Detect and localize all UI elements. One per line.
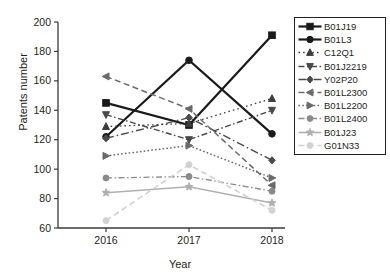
x-tick-label: 2017 bbox=[177, 234, 201, 246]
data-point bbox=[103, 123, 110, 130]
legend-marker-icon bbox=[297, 139, 323, 152]
data-point bbox=[185, 183, 193, 190]
legend-item-b01l2400[interactable]: B01L2400 bbox=[297, 112, 383, 125]
legend-marker-icon bbox=[297, 86, 323, 99]
legend-item-label: B01L2300 bbox=[324, 86, 367, 99]
legend-item-c12q1[interactable]: C12Q1 bbox=[297, 46, 383, 59]
series-line bbox=[106, 76, 272, 185]
y-tick-label: 100 bbox=[33, 163, 51, 175]
legend-marker-icon bbox=[297, 46, 323, 59]
patents-number-line-chart: 6080100120140160180200201620172018 Paten… bbox=[0, 0, 390, 276]
series-b01j23 bbox=[102, 183, 276, 207]
data-point bbox=[269, 188, 275, 194]
legend-item-b01j23[interactable]: B01J23 bbox=[297, 126, 383, 139]
series-g01n33 bbox=[103, 162, 275, 224]
legend-item-y02p20[interactable]: Y02P20 bbox=[297, 73, 383, 86]
data-point bbox=[186, 162, 192, 168]
data-point bbox=[269, 157, 275, 164]
legend-marker-icon bbox=[297, 20, 323, 33]
data-point bbox=[186, 57, 193, 64]
y-axis-title: Patents number bbox=[17, 47, 29, 137]
legend-item-label: B01J23 bbox=[324, 126, 356, 139]
legend-item-label: G01N33 bbox=[324, 139, 359, 152]
data-point bbox=[103, 218, 109, 224]
y-tick-label: 160 bbox=[33, 74, 51, 86]
legend-marker-icon bbox=[297, 60, 323, 73]
series-line bbox=[106, 187, 272, 203]
data-point bbox=[268, 199, 276, 206]
data-point bbox=[269, 95, 276, 102]
legend-item-label: B01J19 bbox=[324, 20, 356, 33]
y-tick-label: 120 bbox=[33, 133, 51, 145]
y-tick-label: 200 bbox=[33, 16, 51, 28]
legend-item-label: C12Q1 bbox=[324, 46, 354, 59]
series-c12q1 bbox=[103, 95, 276, 130]
legend-item-b01l3[interactable]: B01L3 bbox=[297, 33, 383, 46]
legend-item-g01n33[interactable]: G01N33 bbox=[297, 139, 383, 152]
legend-item-b01l2300[interactable]: B01L2300 bbox=[297, 86, 383, 99]
data-point bbox=[269, 131, 276, 138]
data-point bbox=[186, 174, 192, 180]
series-b01l2300 bbox=[102, 73, 275, 189]
data-point bbox=[185, 105, 192, 112]
y-tick-label: 140 bbox=[33, 104, 51, 116]
x-axis-title: Year bbox=[80, 258, 280, 270]
legend-item-label: B01J2219 bbox=[324, 60, 367, 73]
chart-legend: B01J19B01L3C12Q1B01J2219Y02P20B01L2300B0… bbox=[294, 17, 386, 155]
chart-series-layer bbox=[102, 32, 276, 224]
legend-marker-icon bbox=[297, 33, 323, 46]
data-point bbox=[103, 100, 110, 107]
legend-marker-icon bbox=[297, 73, 323, 86]
legend-item-label: B01L2400 bbox=[324, 112, 367, 125]
y-tick-label: 180 bbox=[33, 45, 51, 57]
legend-marker-icon bbox=[297, 99, 323, 112]
data-point bbox=[102, 189, 110, 196]
data-point bbox=[269, 207, 275, 213]
legend-item-b01j2219[interactable]: B01J2219 bbox=[297, 60, 383, 73]
y-tick-label: 60 bbox=[39, 222, 51, 234]
legend-item-b01j19[interactable]: B01J19 bbox=[297, 20, 383, 33]
data-point bbox=[103, 175, 109, 181]
legend-item-label: B01L3 bbox=[324, 33, 351, 46]
x-tick-label: 2016 bbox=[94, 234, 118, 246]
legend-item-label: Y02P20 bbox=[324, 73, 358, 86]
data-point bbox=[186, 114, 192, 121]
data-point bbox=[269, 174, 276, 181]
data-point bbox=[269, 32, 276, 39]
y-tick-label: 80 bbox=[39, 192, 51, 204]
legend-item-b01l2200[interactable]: B01L2200 bbox=[297, 99, 383, 112]
data-point bbox=[103, 152, 110, 159]
x-tick-label: 2018 bbox=[260, 234, 284, 246]
legend-marker-icon bbox=[297, 126, 323, 139]
legend-item-label: B01L2200 bbox=[324, 99, 367, 112]
data-point bbox=[102, 73, 109, 80]
legend-marker-icon bbox=[297, 112, 323, 125]
